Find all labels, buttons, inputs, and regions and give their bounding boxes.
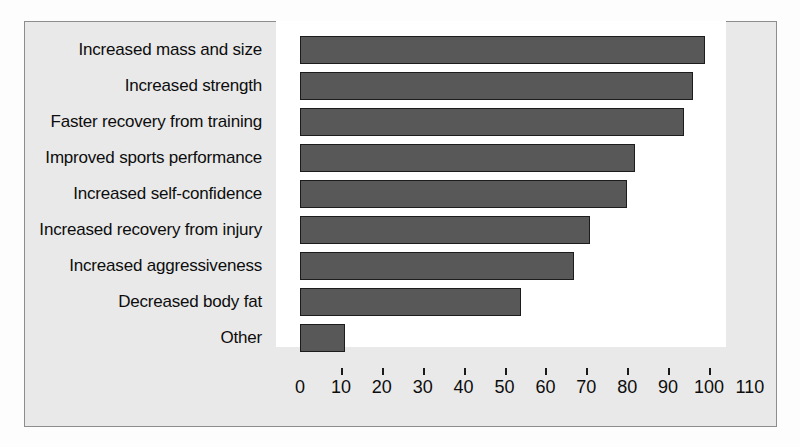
category-label: Increased strength bbox=[125, 68, 262, 104]
axis-tick bbox=[382, 368, 384, 375]
axis-tick bbox=[505, 368, 507, 375]
axis-tick-label: 60 bbox=[535, 377, 555, 398]
axis-tick-label: 0 bbox=[295, 377, 305, 398]
bar-series bbox=[300, 32, 760, 356]
bar bbox=[300, 36, 705, 64]
axis-tick bbox=[423, 368, 425, 375]
axis-tick-label: 90 bbox=[658, 377, 678, 398]
category-label: Improved sports performance bbox=[45, 140, 262, 176]
bar bbox=[300, 108, 684, 136]
category-axis-labels: Increased mass and sizeIncreased strengt… bbox=[0, 32, 270, 356]
category-label: Increased aggressiveness bbox=[69, 248, 262, 284]
bar bbox=[300, 72, 693, 100]
axis-tick-label: 80 bbox=[617, 377, 637, 398]
axis-tick bbox=[709, 368, 711, 375]
axis-tick bbox=[464, 368, 466, 375]
axis-tick bbox=[341, 368, 343, 375]
axis-tick-label: 30 bbox=[413, 377, 433, 398]
axis-tick-label: 20 bbox=[372, 377, 392, 398]
axis-tick bbox=[586, 368, 588, 375]
axis-tick-label: 100 bbox=[694, 377, 724, 398]
axis-tick-label: 50 bbox=[494, 377, 514, 398]
bar bbox=[300, 180, 627, 208]
category-label: Faster recovery from training bbox=[51, 104, 263, 140]
axis-tick bbox=[627, 368, 629, 375]
chart-figure: Increased mass and sizeIncreased strengt… bbox=[0, 0, 800, 447]
axis-tick-label: 70 bbox=[576, 377, 596, 398]
value-axis: 0102030405060708090100110 bbox=[300, 368, 770, 408]
bar bbox=[300, 288, 521, 316]
bar bbox=[300, 324, 345, 352]
axis-tick-label: 10 bbox=[331, 377, 351, 398]
category-label: Increased recovery from injury bbox=[39, 212, 262, 248]
category-label: Increased self-confidence bbox=[73, 176, 262, 212]
bar bbox=[300, 252, 574, 280]
axis-tick bbox=[668, 368, 670, 375]
category-label: Other bbox=[220, 320, 262, 356]
axis-tick bbox=[545, 368, 547, 375]
axis-tick-label: 110 bbox=[736, 377, 765, 398]
category-label: Decreased body fat bbox=[118, 284, 262, 320]
bar bbox=[300, 216, 590, 244]
axis-tick-label: 40 bbox=[454, 377, 474, 398]
category-label: Increased mass and size bbox=[79, 32, 262, 68]
bar bbox=[300, 144, 635, 172]
